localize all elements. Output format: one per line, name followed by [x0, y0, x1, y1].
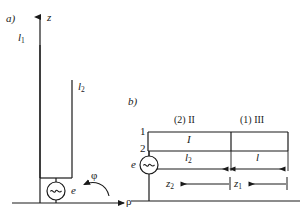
source-label-b: e — [131, 159, 136, 170]
panel-a-source-symbol — [47, 182, 65, 203]
coordinate-label-z2-sub: 2 — [170, 182, 174, 191]
panel-a-folded-conductor — [40, 45, 72, 182]
axis-label-z: z — [47, 12, 51, 23]
axis-label-rho: ρ — [126, 196, 132, 207]
length-label-l1-sub: 1 — [21, 36, 25, 45]
dimension-label-l2: l2 — [185, 152, 192, 165]
terminal-label-1: 1 — [140, 126, 146, 137]
panel-b-extension-lines — [149, 151, 288, 171]
panel-b-line-conductors — [148, 132, 288, 151]
panel-b-source-symbol — [140, 151, 158, 201]
dimension-label-l: l — [256, 152, 259, 163]
length-label-l1: l1 — [18, 32, 25, 45]
dimension-label-l2-sub: 2 — [188, 156, 192, 165]
panel-b-tag: b) — [128, 96, 137, 107]
length-label-l2: l2 — [78, 81, 85, 94]
coordinate-label-z1: z1 — [234, 178, 242, 191]
region-label-one: (1) III — [240, 115, 264, 125]
source-label-a: e — [71, 185, 76, 196]
coordinate-label-z1-sub: 1 — [238, 182, 242, 191]
length-label-l2-sub: 2 — [81, 85, 85, 94]
terminal-label-2: 2 — [140, 143, 146, 154]
coordinate-label-z2: z2 — [166, 178, 174, 191]
angle-label-phi: φ — [91, 170, 97, 181]
panel-a-tag: a) — [6, 13, 15, 24]
current-label-I: I — [187, 134, 191, 145]
region-label-two: (2) II — [174, 115, 195, 125]
diagram-vector-layer — [0, 0, 300, 213]
panel-a-phi-arc — [84, 183, 109, 196]
figure-container: a) z ρ φ l1 l2 e b) (2) II (1) III 1 2 I… — [0, 0, 300, 213]
